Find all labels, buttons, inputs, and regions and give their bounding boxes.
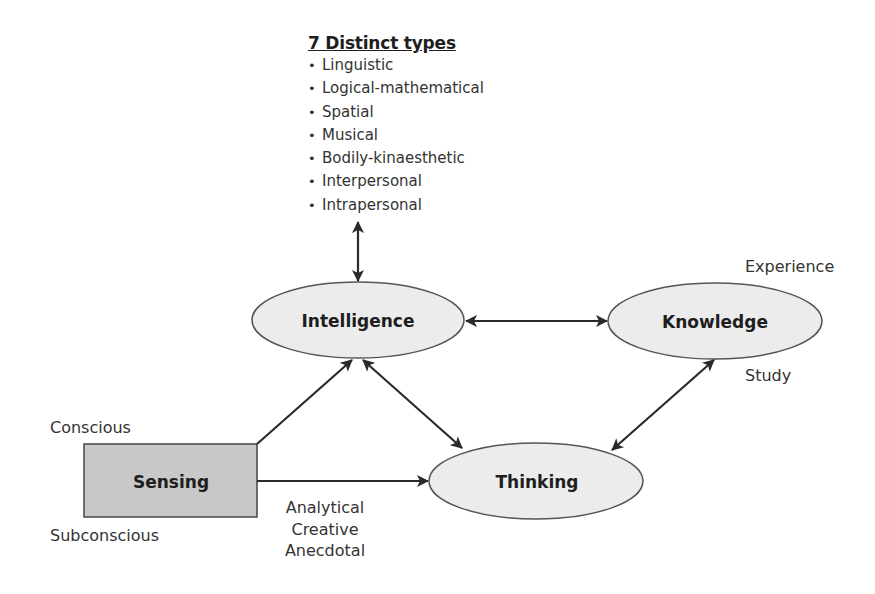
experience-label: Experience (745, 257, 834, 276)
list-item: •Linguistic (308, 54, 484, 77)
intelligence-thinking-arrow (363, 360, 462, 448)
bullet-icon: • (308, 148, 322, 170)
bullet-icon: • (308, 102, 322, 124)
style-anecdotal: Anecdotal (260, 540, 390, 562)
types-title: 7 Distinct types (308, 32, 484, 54)
list-item: •Spatial (308, 101, 484, 124)
subconscious-label: Subconscious (50, 526, 159, 545)
study-label: Study (745, 366, 791, 385)
sensing-intelligence-arrow (257, 360, 352, 444)
list-item: •Logical-mathematical (308, 77, 484, 100)
intelligence-label: Intelligence (302, 311, 415, 331)
conscious-label: Conscious (50, 418, 131, 437)
knowledge-label: Knowledge (662, 312, 768, 332)
style-creative: Creative (260, 519, 390, 541)
list-item: •Interpersonal (308, 170, 484, 193)
list-item: •Intrapersonal (308, 194, 484, 217)
thinking-knowledge-arrow (612, 360, 714, 450)
sensing-label: Sensing (133, 472, 209, 492)
thinking-styles-list: Analytical Creative Anecdotal (260, 497, 390, 562)
list-item: •Bodily-kinaesthetic (308, 147, 484, 170)
bullet-icon: • (308, 171, 322, 193)
list-item: •Musical (308, 124, 484, 147)
bullet-icon: • (308, 195, 322, 217)
style-analytical: Analytical (260, 497, 390, 519)
thinking-label: Thinking (495, 472, 578, 492)
bullet-icon: • (308, 78, 322, 100)
intelligence-types-list: 7 Distinct types •Linguistic •Logical-ma… (308, 32, 484, 217)
bullet-icon: • (308, 125, 322, 147)
bullet-icon: • (308, 55, 322, 77)
